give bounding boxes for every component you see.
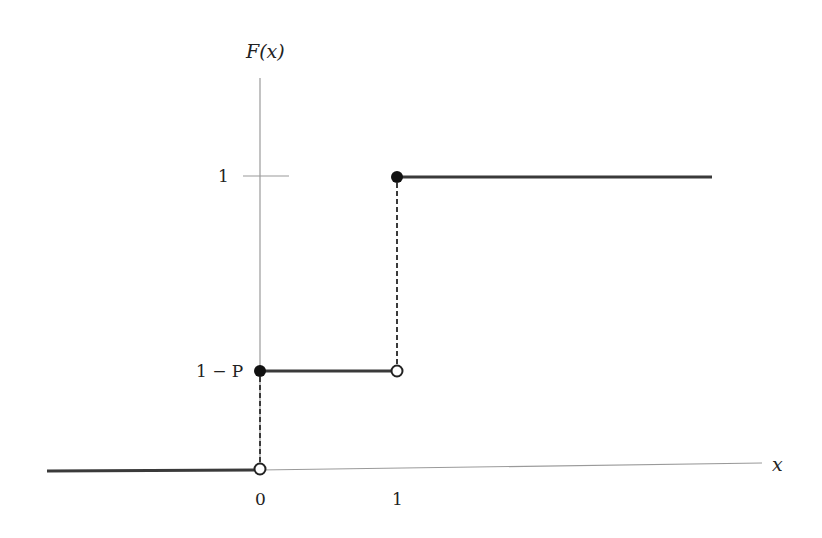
x-axis (260, 463, 762, 470)
axes (243, 78, 762, 470)
y-tick-label-one-minus-p: 1 − P (196, 361, 243, 381)
segment-zero (47, 470, 254, 471)
step-function (47, 177, 712, 471)
filled-dot-one-one (391, 171, 403, 183)
filled-dot-zero-one-minus-p (254, 365, 266, 377)
x-axis-label: x (772, 453, 783, 475)
jump-lines (260, 183, 397, 463)
open-dot-zero-zero (255, 464, 266, 475)
x-tick-label-zero: 0 (255, 489, 266, 509)
open-dot-one-one-minus-p (392, 366, 403, 377)
x-tick-label-one: 1 (392, 489, 403, 509)
cdf-step-diagram: F(x) x 1 1 − P 0 1 (0, 0, 822, 538)
markers (254, 171, 403, 475)
y-axis-label: F(x) (245, 40, 285, 62)
y-tick-label-one: 1 (218, 166, 229, 186)
